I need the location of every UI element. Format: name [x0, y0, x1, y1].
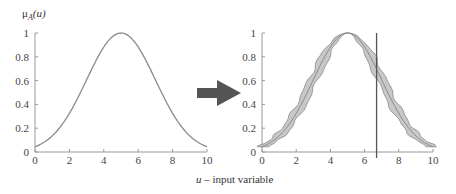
y-tick-label: 0.6: [15, 75, 29, 87]
y-tick-label: 0.8: [242, 51, 256, 63]
y-tick-label: 0.4: [15, 98, 29, 110]
x-tick-label: 10: [428, 154, 440, 166]
x-tick-label: 10: [202, 154, 214, 166]
y-tick-label: 0.2: [242, 122, 256, 134]
left-ylabel: μA(u): [22, 7, 46, 22]
y-tick-label: 0.6: [242, 75, 256, 87]
figure: μA(u) 024681000.20.40.60.81 024681000.20…: [0, 0, 456, 194]
x-tick-label: 6: [135, 154, 141, 166]
membership-curve: [35, 33, 207, 147]
x-tick-label: 2: [67, 154, 73, 166]
y-tick-label: 0.2: [15, 122, 29, 134]
left-chart: 024681000.20.40.60.81: [15, 27, 213, 166]
x-tick-label: 8: [396, 154, 402, 166]
x-tick-label: 4: [101, 154, 107, 166]
x-tick-label: 6: [362, 154, 368, 166]
right-chart: 024681000.20.40.60.81: [242, 27, 439, 166]
x-tick-label: 8: [170, 154, 176, 166]
y-tick-label: 1: [24, 27, 30, 39]
y-tick-label: 0: [24, 146, 30, 158]
arrow-icon: [197, 80, 241, 106]
y-tick-label: 0.4: [242, 98, 256, 110]
x-tick-label: 4: [328, 154, 334, 166]
xlabel: u – input variable: [196, 173, 273, 185]
y-tick-label: 0.8: [15, 51, 29, 63]
y-tick-label: 1: [251, 27, 257, 39]
y-tick-label: 0: [251, 146, 257, 158]
uncertainty-band: [257, 33, 436, 147]
x-tick-label: 0: [32, 154, 38, 166]
x-tick-label: 2: [293, 154, 299, 166]
x-tick-label: 0: [259, 154, 265, 166]
